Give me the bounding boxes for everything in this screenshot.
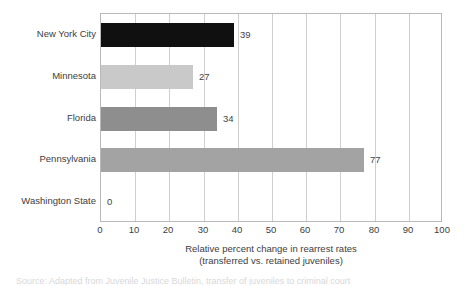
- bar[interactable]: [101, 107, 217, 131]
- x-tick-label: 50: [266, 225, 277, 235]
- x-tick-label: 40: [232, 225, 243, 235]
- bar-chart-figure: New York CityMinnesotaFloridaPennsylvani…: [0, 0, 471, 286]
- bar-value-label: 39: [240, 30, 251, 40]
- x-tick-label: 70: [334, 225, 345, 235]
- category-label: New York City: [2, 29, 96, 39]
- category-label: Florida: [2, 113, 96, 123]
- bar[interactable]: [101, 23, 234, 47]
- bar-row: 27: [101, 65, 441, 89]
- x-axis-tick-labels: 0102030405060708090100: [100, 225, 442, 237]
- bar-row: 34: [101, 107, 441, 131]
- x-tick-label: 60: [300, 225, 311, 235]
- x-axis-title-line-2: (transferred vs. retained juveniles): [100, 255, 442, 267]
- x-axis-title-line-1: Relative percent change in rearrest rate…: [100, 243, 442, 255]
- x-tick-label: 100: [434, 225, 450, 235]
- x-tick-label: 0: [97, 225, 102, 235]
- plot-area: 392734770: [100, 13, 442, 222]
- bar-row: 39: [101, 23, 441, 47]
- bar[interactable]: [101, 148, 364, 172]
- x-axis-title: Relative percent change in rearrest rate…: [100, 243, 442, 267]
- category-axis-labels: New York CityMinnesotaFloridaPennsylvani…: [0, 13, 96, 222]
- x-tick-label: 20: [163, 225, 174, 235]
- source-caption: Source: Adapted from Juvenile Justice Bu…: [16, 276, 456, 285]
- x-tick-label: 90: [403, 225, 414, 235]
- category-label: Washington State: [2, 196, 96, 206]
- x-tick-label: 30: [198, 225, 209, 235]
- x-tick-label: 10: [129, 225, 140, 235]
- bar[interactable]: [101, 65, 193, 89]
- bar-row: 0: [101, 190, 441, 214]
- bar-value-label: 27: [199, 72, 210, 82]
- bar-value-label: 77: [370, 155, 381, 165]
- bar-value-label: 34: [223, 114, 234, 124]
- bar-value-label: 0: [107, 197, 112, 207]
- category-label: Minnesota: [2, 71, 96, 81]
- bar-row: 77: [101, 148, 441, 172]
- x-tick-label: 80: [369, 225, 380, 235]
- category-label: Pennsylvania: [2, 154, 96, 164]
